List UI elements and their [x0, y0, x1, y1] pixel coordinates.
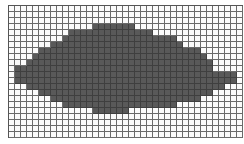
empty-cell: [237, 132, 243, 138]
pixel-grid: [8, 5, 243, 138]
